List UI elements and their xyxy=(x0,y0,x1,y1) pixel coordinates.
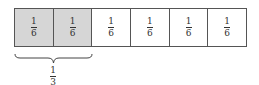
denominator: 6 xyxy=(31,29,37,38)
denominator: 3 xyxy=(50,78,56,85)
fraction-label: 1 6 xyxy=(185,17,193,38)
brace-fraction-label: 1 3 xyxy=(47,66,59,85)
denominator: 6 xyxy=(147,29,153,38)
fraction-cell-6: 1 6 xyxy=(208,9,246,46)
fraction-cell-3: 1 6 xyxy=(92,9,131,46)
numerator: 1 xyxy=(30,17,38,26)
denominator: 6 xyxy=(108,29,114,38)
numerator: 1 xyxy=(146,17,154,26)
denominator: 6 xyxy=(70,29,76,38)
fraction-label: 1 6 xyxy=(69,17,77,38)
numerator: 1 xyxy=(69,17,77,26)
numerator: 1 xyxy=(185,17,193,26)
fraction-label: 1 6 xyxy=(146,17,154,38)
fraction-cell-2: 1 6 xyxy=(54,9,93,46)
fraction-cell-5: 1 6 xyxy=(170,9,209,46)
fraction-label: 1 6 xyxy=(107,17,115,38)
curly-brace-icon xyxy=(14,53,93,65)
numerator: 1 xyxy=(223,17,231,26)
denominator: 6 xyxy=(224,29,230,38)
numerator: 1 xyxy=(49,66,57,75)
fraction-label: 1 6 xyxy=(30,17,38,38)
denominator: 6 xyxy=(186,29,192,38)
fraction-label: 1 6 xyxy=(223,17,231,38)
fraction-bar: 1 6 1 6 1 6 1 6 1 6 1 xyxy=(14,8,247,47)
numerator: 1 xyxy=(107,17,115,26)
fraction-cell-4: 1 6 xyxy=(131,9,170,46)
fraction-cell-1: 1 6 xyxy=(15,9,54,46)
